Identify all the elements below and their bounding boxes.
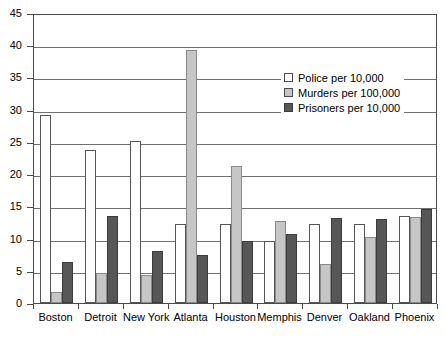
bar <box>40 115 51 303</box>
y-tick-label: 5 <box>16 266 22 277</box>
bar <box>365 237 376 303</box>
x-tick-label: Boston <box>33 311 78 323</box>
y-tick-label: 25 <box>10 137 22 148</box>
bar <box>107 216 118 303</box>
bar <box>410 217 421 303</box>
x-tick-label: Atlanta <box>168 311 213 323</box>
bar <box>331 218 342 303</box>
bar <box>399 216 410 303</box>
x-tick-mark <box>437 304 438 309</box>
y-tick-label: 45 <box>10 8 22 19</box>
x-tick-label: Houston <box>213 311 258 323</box>
bar <box>220 224 231 303</box>
y-tick-label: 30 <box>10 105 22 116</box>
legend-item-murders: Murders per 100,000 <box>284 85 400 100</box>
plot-area <box>33 14 437 304</box>
legend-item-police: Police per 10,000 <box>284 70 400 85</box>
bar <box>264 241 275 304</box>
murders-swatch-icon <box>284 88 293 97</box>
y-tick-label: 0 <box>16 298 22 309</box>
bar <box>231 166 242 303</box>
x-tick-mark <box>123 304 124 309</box>
bar <box>130 141 141 303</box>
y-axis: 051015202530354045 <box>0 0 33 344</box>
bar <box>186 50 197 303</box>
gridline <box>34 144 436 145</box>
bar <box>275 221 286 303</box>
bar <box>85 150 96 303</box>
legend-label-prisoners: Prisoners per 10,000 <box>298 102 400 114</box>
bar <box>286 234 297 303</box>
police-swatch-icon <box>284 73 293 82</box>
x-tick-label: Phoenix <box>392 311 437 323</box>
x-tick-mark <box>302 304 303 309</box>
x-tick-mark <box>78 304 79 309</box>
y-tick-label: 20 <box>10 169 22 180</box>
bar <box>51 292 62 303</box>
legend-label-police: Police per 10,000 <box>298 72 384 84</box>
bar <box>96 273 107 303</box>
y-tick-label: 10 <box>10 234 22 245</box>
x-tick-label: New York <box>123 311 168 323</box>
legend-label-murders: Murders per 100,000 <box>298 87 400 99</box>
x-tick-mark <box>347 304 348 309</box>
y-tick-label: 35 <box>10 72 22 83</box>
x-tick-label: Detroit <box>78 311 123 323</box>
bar <box>152 251 163 303</box>
legend-item-prisoners: Prisoners per 10,000 <box>284 100 400 115</box>
chart-legend: Police per 10,000 Murders per 100,000 Pr… <box>281 68 404 118</box>
x-tick-mark <box>213 304 214 309</box>
bar <box>242 241 253 303</box>
x-tick-label: Denver <box>302 311 347 323</box>
x-tick-mark <box>392 304 393 309</box>
x-tick-label: Oakland <box>347 311 392 323</box>
bar <box>175 224 186 303</box>
x-tick-label: Memphis <box>257 311 302 323</box>
x-tick-mark <box>168 304 169 309</box>
bar <box>421 209 432 303</box>
bar <box>197 255 208 303</box>
bar <box>354 224 365 303</box>
bar <box>141 275 152 303</box>
y-tick-label: 40 <box>10 40 22 51</box>
bar <box>62 262 73 303</box>
bar <box>320 264 331 303</box>
prisoners-swatch-icon <box>284 103 293 112</box>
bar <box>309 224 320 303</box>
x-tick-mark <box>33 304 34 309</box>
x-tick-mark <box>257 304 258 309</box>
y-tick-label: 15 <box>10 201 22 212</box>
bar <box>376 219 387 303</box>
bar-chart: 051015202530354045 BostonDetroitNew York… <box>0 0 445 344</box>
gridline <box>34 47 436 48</box>
